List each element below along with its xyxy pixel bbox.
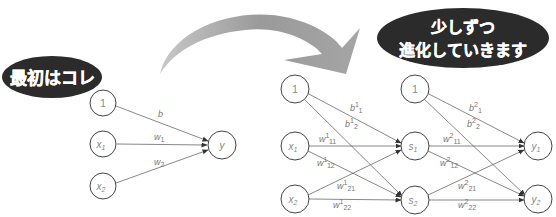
output-node-y: y (208, 131, 236, 159)
callout-before-text: 最初はコレ (10, 68, 95, 88)
svg-text:1: 1 (412, 84, 418, 95)
svg-text:1: 1 (292, 84, 298, 95)
svg-text:y: y (219, 140, 226, 151)
deep-input-node-x1: x1 (281, 132, 309, 160)
hidden-node-s2: s2 (401, 186, 429, 214)
weight-b1-1: b11 (350, 101, 362, 114)
edge-w1 (117, 144, 207, 145)
weight-w1-11: w111 (319, 132, 336, 145)
callout-before: 最初はコレ (2, 56, 102, 98)
weight-b: b (158, 109, 163, 119)
callout-after: 少しずつ 進化していきます (377, 8, 549, 68)
edge-b1-2 (304, 99, 402, 196)
hidden-node-s1: s1 (401, 132, 429, 160)
callout-after-line1: 少しずつ (430, 18, 495, 37)
simple-network: b w1 w2 1 x1 x2 y (90, 90, 236, 199)
weight-w1: w1 (154, 132, 165, 143)
output-node-y1: y1 (524, 132, 552, 160)
hidden-node-bias: 1 (401, 75, 429, 103)
weight-w1-12: w112 (317, 156, 335, 169)
output-node-y2: y2 (524, 185, 552, 213)
evolution-arrow-icon (160, 15, 360, 74)
callout-after-line2: 進化していきます (399, 41, 527, 60)
deep-input-node-bias: 1 (281, 75, 309, 103)
weight-b2-1: b21 (469, 101, 482, 114)
network-evolution-diagram: 最初はコレ 少しずつ 進化していきます b w1 w2 1 x1 x2 y (0, 0, 556, 217)
weight-w2-12: w212 (440, 156, 458, 169)
svg-text:1: 1 (100, 98, 106, 109)
weight-w2-21: w221 (458, 179, 476, 192)
weight-w2-11: w211 (443, 132, 461, 145)
input-node-x1: x1 (90, 131, 116, 157)
deep-input-node-x2: x2 (281, 185, 309, 213)
deep-network: b11 b12 w111 w112 w121 w122 b21 b22 w211… (281, 75, 552, 214)
edge-w1-22 (309, 199, 401, 200)
weight-w2: w2 (154, 157, 165, 168)
input-node-x2: x2 (90, 173, 116, 199)
input-node-bias: 1 (90, 90, 116, 116)
edge-b2-2 (424, 99, 525, 195)
weight-w1-22: w122 (333, 198, 351, 211)
weight-w1-21: w121 (337, 179, 355, 192)
